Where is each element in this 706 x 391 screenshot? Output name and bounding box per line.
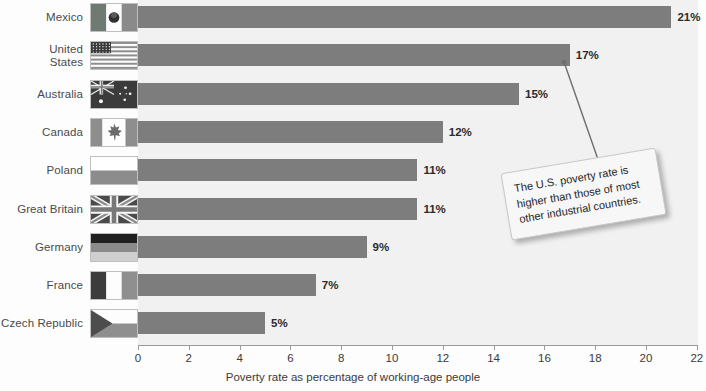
- bar: [138, 312, 265, 334]
- x-axis-tick-label: 18: [589, 352, 602, 364]
- bar: [138, 83, 519, 105]
- flag-mexico-icon: [90, 3, 138, 32]
- country-label: United States: [49, 43, 90, 69]
- bar-value-label: 21%: [677, 6, 700, 28]
- flag-united-states-icon: [90, 41, 138, 70]
- x-axis-tick: [494, 345, 495, 350]
- x-axis-tick-label: 20: [640, 352, 653, 364]
- bar-value-label: 9%: [373, 236, 390, 258]
- bar-value-label: 11%: [423, 159, 445, 181]
- x-axis-tick: [138, 345, 139, 350]
- x-axis-tick: [341, 345, 342, 350]
- x-axis-tick: [646, 345, 647, 350]
- bar: [138, 236, 367, 258]
- x-axis-tick: [189, 345, 190, 350]
- x-axis-tick: [290, 345, 291, 350]
- x-axis-tick: [392, 345, 393, 350]
- x-axis-tick: [443, 345, 444, 350]
- flag-great-britain-icon: [90, 195, 138, 224]
- x-axis-line: [138, 345, 698, 346]
- bar: [138, 274, 316, 296]
- x-axis-tick-label: 16: [538, 352, 551, 364]
- flag-germany-icon: [90, 233, 138, 262]
- x-axis-tick: [697, 345, 698, 350]
- country-label: Germany: [35, 241, 90, 254]
- x-axis-tick-label: 10: [386, 352, 399, 364]
- x-axis-tick-label: 6: [287, 352, 293, 364]
- country-row: Poland: [0, 156, 138, 185]
- x-axis-tick-label: 12: [436, 352, 449, 364]
- bar-value-label: 11%: [423, 198, 445, 220]
- country-label: Great Britain: [17, 203, 90, 216]
- bar: [138, 198, 417, 220]
- x-axis-title: Poverty rate as percentage of working-ag…: [0, 371, 706, 383]
- country-row: Germany: [0, 233, 138, 262]
- country-label: Mexico: [46, 11, 90, 24]
- poverty-rate-bar-chart: Mexico United StatesAustralia Can: [0, 0, 706, 391]
- country-label: Czech Republic: [1, 317, 90, 330]
- country-label: Poland: [47, 164, 90, 177]
- country-row: Canada: [0, 118, 138, 147]
- x-axis-tick: [240, 345, 241, 350]
- flag-australia-icon: [90, 80, 138, 109]
- bar: [138, 121, 443, 143]
- bar: [138, 44, 570, 66]
- bar-value-label: 7%: [322, 274, 339, 296]
- bar-value-label: 12%: [449, 121, 472, 143]
- bar-value-label: 17%: [576, 44, 599, 66]
- flag-canada-icon: [90, 118, 138, 147]
- flag-czech-republic-icon: [90, 309, 138, 338]
- country-row: Australia: [0, 80, 138, 109]
- country-row: Great Britain: [0, 195, 138, 224]
- x-axis-tick-label: 8: [338, 352, 344, 364]
- country-row: France: [0, 271, 138, 300]
- x-axis-tick-label: 14: [487, 352, 500, 364]
- country-row: Czech Republic: [0, 309, 138, 338]
- country-row: United States: [0, 41, 138, 70]
- x-axis-tick: [544, 345, 545, 350]
- country-label: France: [47, 279, 90, 292]
- country-label: Canada: [42, 126, 90, 139]
- bar: [138, 6, 671, 28]
- bar-value-label: 5%: [271, 312, 288, 334]
- bar: [138, 159, 417, 181]
- x-axis-tick: [595, 345, 596, 350]
- bar-value-label: 15%: [525, 83, 548, 105]
- x-axis-tick-label: 0: [135, 352, 141, 364]
- x-axis-tick-label: 4: [236, 352, 242, 364]
- flag-france-icon: [90, 271, 138, 300]
- flag-poland-icon: [90, 156, 138, 185]
- country-label: Australia: [37, 88, 90, 101]
- x-axis-tick-label: 2: [186, 352, 192, 364]
- country-row: Mexico: [0, 3, 138, 32]
- x-axis-tick-label: 22: [690, 352, 703, 364]
